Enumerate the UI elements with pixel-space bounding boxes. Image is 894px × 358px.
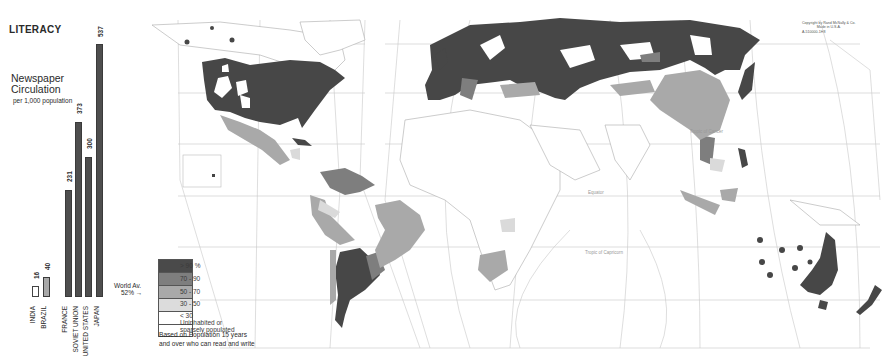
bar-united-states — [85, 157, 92, 297]
bar-label-united-states: UNITED STATES — [82, 306, 89, 356]
bar-value-india: 16 — [33, 272, 40, 279]
world-literacy-map: Tropic of Cancer Equator Tropic of Capri… — [150, 0, 894, 358]
bar-label-japan: JAPAN — [93, 306, 100, 356]
map-title: LITERACY — [9, 24, 61, 35]
arrow-right-icon: → — [136, 289, 143, 296]
newspaper-chart-title: Newspaper Circulation — [11, 73, 64, 95]
equator-label: Equator — [588, 190, 604, 195]
tropic-of-cancer-label: Tropic of Cancer — [690, 129, 724, 134]
bar-label-brazil: BRAZIL — [40, 306, 47, 356]
bar-value-france: 231 — [66, 171, 73, 182]
bar-label-india: INDIA — [29, 306, 36, 356]
world-average-marker: World Av. 52% → — [114, 282, 142, 296]
hawaii-inset — [183, 155, 221, 187]
world-average-label: World Av. — [114, 282, 142, 289]
bar-value-soviet-union: 373 — [76, 103, 83, 114]
bar-brazil — [43, 277, 50, 297]
world-average-value: 52% — [121, 289, 134, 296]
bar-soviet-union — [75, 122, 82, 297]
bar-value-japan: 537 — [97, 26, 104, 37]
bar-india — [32, 286, 39, 297]
bar-france — [65, 190, 72, 297]
newspaper-chart-subtitle: per 1,000 population — [13, 97, 72, 104]
newspaper-title-line2: Circulation — [11, 84, 64, 95]
bar-value-united-states: 300 — [86, 138, 93, 149]
bar-label-france: FRANCE — [61, 306, 68, 356]
bar-japan — [96, 44, 103, 297]
tropic-of-capricorn-label: Tropic of Capricorn — [585, 250, 624, 255]
bar-value-brazil: 40 — [44, 263, 51, 270]
bar-label-soviet-union: SOVIET UNION — [72, 306, 79, 356]
